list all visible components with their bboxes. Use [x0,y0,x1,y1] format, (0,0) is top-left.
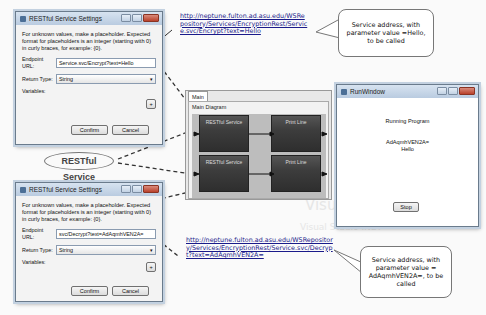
maximize-button[interactable] [132,185,142,193]
close-button[interactable] [143,185,159,193]
top-settings-dialog: RESTful Service Settings For unknown val… [15,11,163,145]
instructions-text: For unknown values, make a placeholder. … [22,202,156,223]
endpoint-label: Endpoint URL: [22,56,56,70]
diagram-title: Main Diagram [189,102,328,112]
window-title: RunWindow [350,88,385,95]
close-button[interactable] [143,14,159,22]
endpoint-label: Endpoint URL: [22,227,56,241]
output-line: Hello [343,146,472,153]
top-callout: Service address, with parameter value =H… [338,9,434,57]
return-type-select[interactable]: String▾ [56,245,156,255]
titlebar: RunWindow [337,85,478,98]
maximize-button[interactable] [448,87,458,95]
diagram-canvas: RESTful Service Print Line RESTful Servi… [192,114,326,198]
endpoint-url-input[interactable]: Service.svc/Encrypt?text=Hello [56,58,156,68]
dialog-title: RESTful Service Settings [29,186,102,193]
stop-button[interactable]: Stop [393,202,419,212]
app-icon [20,187,26,193]
return-type-value: String [59,76,73,82]
add-variable-button[interactable]: + [146,99,156,109]
instructions-text: For unknown values, make a placeholder. … [22,31,156,52]
minimize-button[interactable] [121,185,131,193]
titlebar: RESTful Service Settings [16,12,162,25]
endpoint-url-input[interactable]: svc/Decrypt?text=AdAqmhVEN2A= [56,229,156,239]
add-variable-button[interactable]: + [146,262,156,272]
minimize-button[interactable] [437,87,447,95]
diagram-panel: Main Main Diagram RESTful Service Print … [185,90,332,200]
titlebar: RESTful Service Settings [16,183,162,196]
chevron-down-icon: ▾ [150,247,153,253]
close-button[interactable] [459,87,475,95]
bottom-service-url[interactable]: http://neptune.fulton.ad.asu.edu/WSRepos… [186,237,334,260]
output-line: AdAqmhVEN2A= [343,139,472,146]
app-icon [20,16,26,22]
chevron-down-icon: ▾ [150,76,153,82]
variables-label: Variables: [22,259,56,266]
restful-service-label: RESTful Service [44,152,114,170]
run-window: RunWindow Running Program AdAqmhVEN2A= H… [336,84,479,227]
return-type-value: String [59,247,73,253]
maximize-button[interactable] [132,14,142,22]
cancel-button[interactable]: Cancel [112,125,149,135]
minimize-button[interactable] [121,14,131,22]
tab-main[interactable]: Main [188,91,208,101]
status-text: Running Program [343,118,472,125]
app-icon [341,89,347,95]
confirm-button[interactable]: Confirm [71,286,108,296]
return-type-label: Return Type: [22,76,56,83]
bottom-settings-dialog: RESTful Service Settings For unknown val… [15,182,163,302]
cancel-button[interactable]: Cancel [112,286,149,296]
variables-label: Variables: [22,88,56,95]
bottom-callout: Service address, with parameter value = … [360,246,452,298]
dialog-title: RESTful Service Settings [29,15,102,22]
block-connectors [192,114,337,204]
confirm-button[interactable]: Confirm [71,125,108,135]
return-type-select[interactable]: String▾ [56,74,156,84]
return-type-label: Return Type: [22,247,56,254]
top-service-url[interactable]: http://neptune.fulton.ad.asu.edu/WSRepos… [180,13,308,36]
